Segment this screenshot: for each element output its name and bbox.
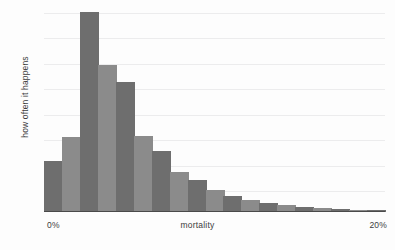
histogram-bar [170,172,189,212]
histogram-bar [206,190,225,212]
histogram-bar [80,12,99,212]
y-axis-title: how often it happens [20,27,30,167]
histogram-chart: how often it happens 0% mortality 20% [0,0,395,250]
histogram-bar [98,65,117,212]
plot-area [44,8,385,212]
histogram-bar [188,180,207,212]
bars-group [44,8,385,212]
histogram-bar [152,151,171,212]
histogram-bar [116,82,135,212]
histogram-bar [134,136,153,212]
histogram-bar [44,161,63,212]
x-axis-line [44,211,385,212]
histogram-bar [223,196,242,212]
histogram-bar [62,137,81,212]
x-axis-title: mortality [0,220,395,230]
x-axis-max-label: 20% [369,220,387,230]
